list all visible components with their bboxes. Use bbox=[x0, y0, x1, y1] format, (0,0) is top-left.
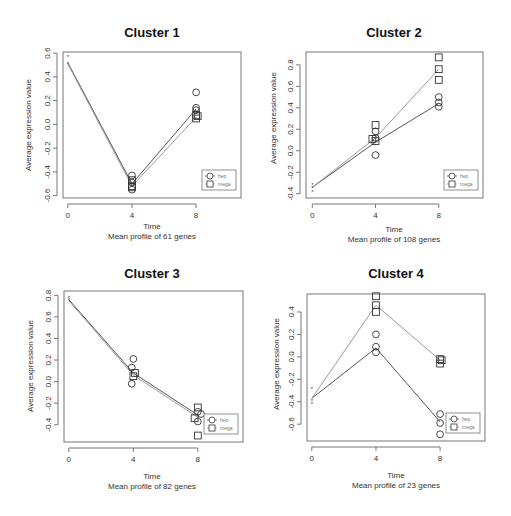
panel-subtitle: Mean profile of 108 genes bbox=[348, 235, 441, 244]
panel-title: Cluster 4 bbox=[368, 266, 424, 281]
point-marker-small: * bbox=[67, 54, 70, 60]
legend-label-mega: mega bbox=[462, 424, 475, 430]
point-marker-circle bbox=[372, 128, 379, 135]
x-axis-label: Time bbox=[143, 472, 161, 481]
x-axis-label: Time bbox=[387, 471, 405, 480]
series-line-hep bbox=[68, 63, 196, 184]
point-marker-circle bbox=[372, 152, 379, 159]
y-tick-label: 0.4 bbox=[286, 102, 295, 114]
point-marker-square bbox=[194, 432, 201, 439]
y-tick-label: 0.2 bbox=[287, 328, 296, 340]
y-tick-label: 0.4 bbox=[43, 71, 52, 83]
y-axis-label: Average expression value bbox=[272, 318, 281, 410]
point-marker-circle bbox=[130, 356, 137, 363]
series-line-hep bbox=[312, 348, 440, 422]
x-axis-label: Time bbox=[143, 222, 161, 231]
panel-title: Cluster 2 bbox=[366, 25, 422, 40]
y-tick-label: -0.2 bbox=[44, 396, 53, 410]
panel-cluster-4: Cluster 4 Time Mean profile of 23 genes … bbox=[272, 266, 485, 490]
y-tick-label: 0.0 bbox=[287, 351, 296, 363]
point-marker-circle bbox=[437, 420, 444, 427]
series-line-mega bbox=[68, 64, 196, 186]
point-marker-circle bbox=[437, 411, 444, 418]
x-tick-label: 0 bbox=[66, 211, 71, 220]
y-axis-label: Average expression value bbox=[24, 79, 33, 171]
panel-cluster-3: Cluster 3 Time Mean profile of 82 genes … bbox=[26, 266, 243, 491]
point-marker-small: * bbox=[311, 401, 314, 407]
legend-label-hep: hep bbox=[218, 173, 227, 179]
panel-title: Cluster 1 bbox=[124, 25, 180, 40]
y-tick-label: 0.0 bbox=[43, 118, 52, 130]
legend: hepmega bbox=[444, 170, 478, 190]
legend-label-hep: hep bbox=[462, 416, 471, 422]
y-tick-label: -0.2 bbox=[43, 141, 52, 155]
plot-area: -0.6-0.4-0.20.00.20.40.6048** bbox=[43, 47, 241, 220]
y-tick-label: -0.4 bbox=[43, 164, 52, 178]
plot-area: -0.4-0.20.00.20.40.60.8048*** bbox=[286, 52, 483, 220]
legend: hepmega bbox=[202, 170, 236, 190]
y-tick-label: 0.6 bbox=[286, 80, 295, 92]
x-tick-label: 8 bbox=[438, 454, 443, 463]
legend-circle-icon bbox=[451, 416, 457, 422]
x-tick-label: 0 bbox=[310, 454, 315, 463]
legend-label-hep: hep bbox=[460, 173, 469, 179]
x-axis-label: Time bbox=[385, 225, 403, 234]
x-tick-label: 4 bbox=[374, 454, 379, 463]
series-line-mega bbox=[312, 305, 440, 398]
cluster-profiles-figure: Cluster 1 Time Mean profile of 61 genes … bbox=[0, 0, 511, 516]
point-marker-circle bbox=[193, 89, 200, 96]
x-tick-label: 4 bbox=[131, 455, 136, 464]
panel-cluster-1: Cluster 1 Time Mean profile of 61 genes … bbox=[24, 25, 241, 241]
point-marker-small: * bbox=[311, 386, 314, 392]
legend-circle-icon bbox=[449, 173, 455, 179]
legend-circle-icon bbox=[207, 173, 213, 179]
legend-square-icon bbox=[451, 424, 457, 430]
series-line-hep bbox=[312, 104, 439, 188]
point-marker-circle bbox=[435, 103, 442, 110]
legend-label-mega: mega bbox=[220, 425, 233, 431]
legend-circle-icon bbox=[209, 417, 215, 423]
x-tick-label: 0 bbox=[310, 211, 315, 220]
y-tick-label: 0.4 bbox=[287, 306, 296, 318]
series-line-mega bbox=[69, 301, 198, 418]
y-tick-label: 0.8 bbox=[286, 59, 295, 71]
panel-subtitle: Mean profile of 82 genes bbox=[108, 482, 196, 491]
y-tick-label: -0.6 bbox=[43, 188, 52, 202]
legend: hepmega bbox=[446, 413, 480, 433]
x-tick-label: 0 bbox=[67, 455, 72, 464]
y-tick-label: -0.6 bbox=[287, 417, 296, 431]
y-axis-label: Average expression value bbox=[269, 72, 278, 164]
y-tick-label: 0.6 bbox=[43, 47, 52, 59]
y-tick-label: 0.2 bbox=[44, 354, 53, 366]
y-tick-label: 0.4 bbox=[44, 332, 53, 344]
y-tick-label: 0.6 bbox=[44, 311, 53, 323]
panel-subtitle: Mean profile of 23 genes bbox=[352, 481, 440, 490]
y-tick-label: -0.2 bbox=[286, 165, 295, 179]
panel-title: Cluster 3 bbox=[124, 266, 180, 281]
point-marker-square bbox=[372, 122, 379, 129]
y-tick-label: -0.4 bbox=[44, 417, 53, 431]
point-marker-square bbox=[435, 77, 442, 84]
x-tick-label: 8 bbox=[437, 211, 442, 220]
legend-label-mega: mega bbox=[460, 181, 473, 187]
y-axis-label: Average expression value bbox=[26, 320, 35, 412]
legend-square-icon bbox=[207, 181, 213, 187]
y-tick-label: 0.8 bbox=[44, 289, 53, 301]
legend-label-hep: hep bbox=[220, 417, 229, 423]
point-marker-circle bbox=[373, 331, 380, 338]
x-tick-label: 4 bbox=[373, 211, 378, 220]
point-marker-circle bbox=[129, 172, 136, 179]
plot-area: -0.6-0.4-0.20.00.20.4048*** bbox=[287, 293, 485, 463]
y-tick-label: -0.4 bbox=[286, 186, 295, 200]
legend-square-icon bbox=[449, 181, 455, 187]
legend-label-mega: mega bbox=[218, 181, 231, 187]
x-tick-label: 8 bbox=[196, 455, 201, 464]
y-tick-label: 0.0 bbox=[286, 145, 295, 157]
plot-area: -0.4-0.20.00.20.40.60.8048** bbox=[44, 289, 243, 464]
point-marker-square bbox=[435, 54, 442, 61]
y-tick-label: 0.0 bbox=[44, 375, 53, 387]
y-tick-label: 0.2 bbox=[286, 123, 295, 135]
x-tick-label: 4 bbox=[130, 211, 135, 220]
panel-subtitle: Mean profile of 61 genes bbox=[108, 232, 196, 241]
legend-square-icon bbox=[209, 425, 215, 431]
